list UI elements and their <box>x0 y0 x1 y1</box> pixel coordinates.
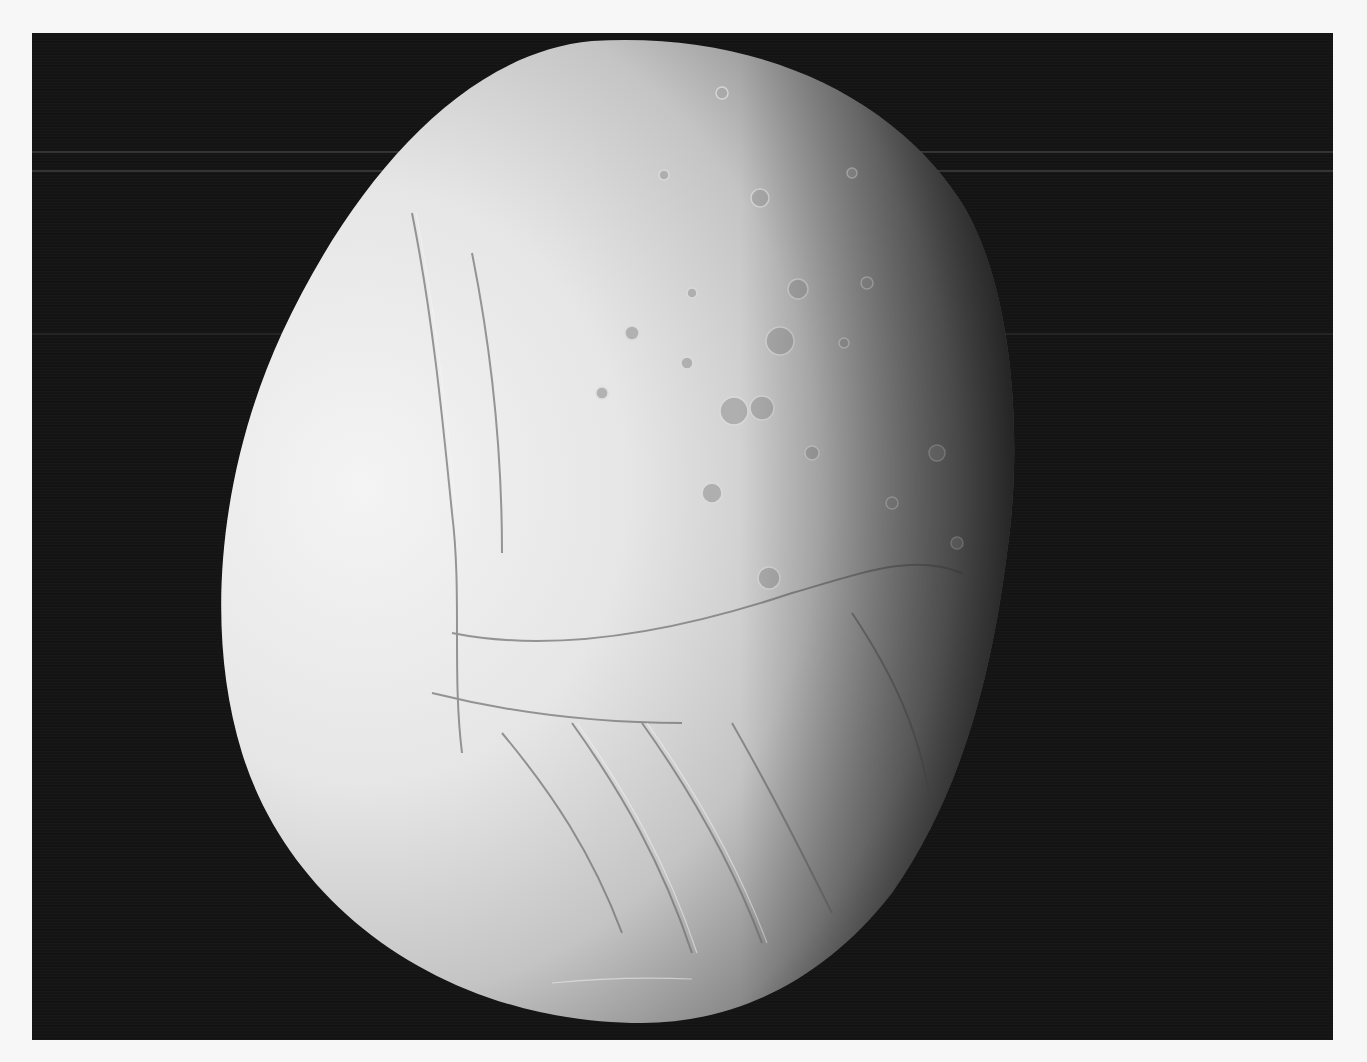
moon-image <box>32 33 1333 1040</box>
photo-frame <box>32 33 1333 1040</box>
